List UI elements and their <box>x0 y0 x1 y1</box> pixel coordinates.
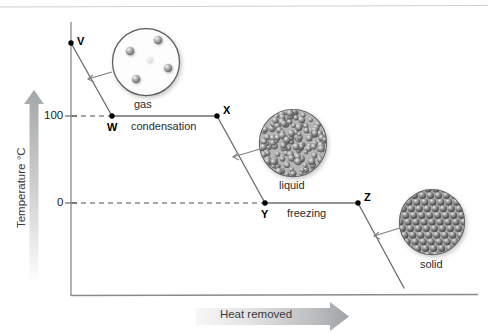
leader-line-solid <box>374 228 400 236</box>
point-marker-y <box>262 200 267 205</box>
gas-circle-outline <box>113 29 180 96</box>
phase-label-liquid: liquid <box>279 180 305 191</box>
point-marker-v <box>68 40 73 45</box>
liquid-callout-circle <box>258 108 328 178</box>
diagram-canvas <box>0 0 488 335</box>
gas-callout-circle <box>113 29 180 96</box>
point-marker-z <box>355 200 360 205</box>
liquid-particles <box>258 108 328 178</box>
y-tick-label-100: 100 <box>44 110 63 122</box>
y-axis-label: Temperature °C <box>16 108 28 268</box>
phase-label-solid: solid <box>420 259 443 270</box>
curve-point-label-v: V <box>77 36 84 47</box>
curve-point-label-x: X <box>223 105 230 116</box>
process-label-freezing: freezing <box>287 208 326 219</box>
cooling-curve-figure: 100 0 V W X Y Z condensation freezing ga… <box>0 0 488 335</box>
y-tick-label-0: 0 <box>57 197 63 209</box>
x-axis-line <box>71 295 478 296</box>
solid-callout-circle <box>394 186 470 259</box>
process-label-condensation: condensation <box>131 121 196 132</box>
curve-point-label-w: W <box>107 122 117 133</box>
y-axis-label-container: Temperature °C <box>6 96 36 284</box>
phase-label-gas: gas <box>134 99 152 110</box>
solid-particles <box>394 186 470 259</box>
curve-point-label-z: Z <box>364 192 371 203</box>
callout-leader-lines <box>88 72 400 236</box>
point-marker-w <box>109 113 114 118</box>
page-top-rule <box>0 6 488 8</box>
point-marker-x <box>214 113 219 118</box>
callout-leader-arrowheads <box>88 75 380 239</box>
x-axis-label: Heat removed <box>196 309 316 321</box>
curve-point-label-y: Y <box>261 209 268 220</box>
